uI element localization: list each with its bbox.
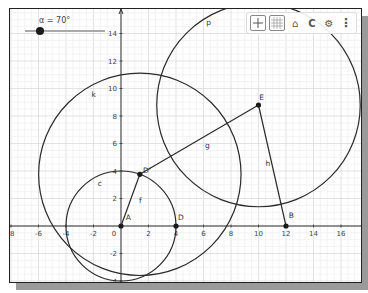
- label-A: A: [126, 213, 132, 222]
- slider-label: α = 70°: [39, 16, 70, 25]
- point-capturing-button[interactable]: C: [305, 16, 319, 30]
- toggle-axes-button[interactable]: [250, 15, 266, 31]
- home-icon: ⌂: [292, 18, 298, 29]
- x-tick-label: -8: [10, 230, 14, 238]
- label-c: c: [98, 179, 102, 188]
- graphics-style-bar: ⌂ C ⚙ ⋮: [246, 12, 357, 34]
- label-f: f: [139, 196, 142, 205]
- angle-slider[interactable]: α = 70°: [25, 16, 115, 42]
- axes-icon: [252, 17, 264, 29]
- point-D-prime[interactable]: [137, 172, 142, 177]
- settings-button[interactable]: ⚙: [322, 16, 336, 30]
- x-tick-label: 10: [254, 230, 263, 238]
- y-tick-label: 10: [108, 85, 117, 93]
- label-h: h: [265, 159, 270, 168]
- label-k: k: [91, 90, 96, 99]
- more-button[interactable]: ⋮: [339, 16, 353, 30]
- label-g: g: [205, 141, 210, 150]
- label-p: p: [206, 18, 211, 27]
- x-tick-label: 6: [201, 230, 206, 238]
- x-tick-label: 8: [229, 230, 233, 238]
- graphics-view[interactable]: -8-6-4-20246810121416-4-22468101214ADD'E…: [9, 8, 362, 283]
- label-B: B: [289, 211, 294, 220]
- kebab-menu-icon: ⋮: [340, 16, 352, 30]
- magnet-icon: C: [308, 18, 315, 29]
- x-tick-label: 12: [282, 230, 291, 238]
- y-tick-label: 8: [113, 113, 117, 121]
- y-tick-label: 6: [113, 140, 118, 148]
- x-tick-label: -6: [35, 230, 43, 238]
- slider-knob[interactable]: [36, 27, 44, 35]
- y-tick-label: 12: [108, 58, 117, 66]
- label-Dp: D': [143, 166, 151, 175]
- toggle-grid-button[interactable]: [269, 15, 285, 31]
- x-tick-label: 16: [337, 230, 346, 238]
- point-B[interactable]: [283, 223, 288, 228]
- x-tick-label: 0: [112, 230, 116, 238]
- x-tick-label: -2: [90, 230, 97, 238]
- gear-icon: ⚙: [325, 18, 334, 29]
- label-D: D: [178, 213, 184, 222]
- x-tick-label: 14: [309, 230, 318, 238]
- x-tick-label: 2: [146, 230, 150, 238]
- y-tick-label: -2: [110, 250, 117, 258]
- graphics-canvas[interactable]: -8-6-4-20246810121416-4-22468101214ADD'E…: [10, 9, 361, 282]
- grid-icon: [271, 17, 283, 29]
- point-A[interactable]: [118, 223, 123, 228]
- y-tick-label: 2: [113, 195, 117, 203]
- point-D[interactable]: [173, 223, 178, 228]
- home-button[interactable]: ⌂: [288, 16, 302, 30]
- point-E[interactable]: [256, 102, 261, 107]
- label-E: E: [259, 93, 264, 102]
